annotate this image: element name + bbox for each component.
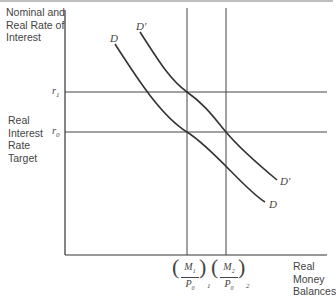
demand-curve-d-prime <box>140 32 277 180</box>
y-axis-label: Nominal and Real Rate of Interest <box>6 6 65 44</box>
d-curve-end-label: D <box>269 198 277 211</box>
x-axis-label: Real Money Balances <box>293 260 336 298</box>
real-interest-rate-target-label: Real Interest Rate Target <box>8 114 43 164</box>
r1-tick-label: r1 <box>52 85 60 102</box>
r0-tick-label: r0 <box>52 125 60 142</box>
d-curve-top-label: D <box>110 32 118 45</box>
d-prime-curve-top-label: D' <box>136 20 146 33</box>
demand-curve-d <box>115 44 265 202</box>
d-prime-curve-end-label: D' <box>280 175 290 188</box>
